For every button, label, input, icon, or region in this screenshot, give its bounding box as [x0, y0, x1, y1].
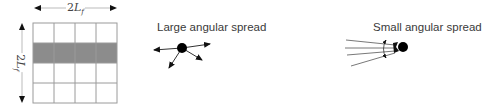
dim-prefix: 2	[14, 54, 27, 61]
large-spread-label: Large angular spread	[157, 21, 266, 33]
angular-spread-figure: 2Lf 2Lf Large angular spread Small angul…	[0, 0, 483, 110]
particle-dot	[398, 42, 408, 52]
dim-subscript: f	[12, 68, 20, 71]
vertical-dimension-label: 2Lf	[12, 53, 27, 72]
small-spread-label: Small angular spread	[373, 21, 482, 33]
figure-canvas	[0, 0, 483, 110]
small-spread-diagram	[345, 40, 408, 66]
grid-panel	[19, 5, 117, 103]
horizontal-dimension-label: 2Lf	[66, 1, 85, 16]
large-spread-diagram	[154, 43, 210, 68]
dim-subscript: f	[81, 8, 84, 16]
grid-lines	[33, 23, 117, 103]
dim-prefix: 2	[67, 1, 74, 14]
particle-dot	[177, 43, 187, 53]
